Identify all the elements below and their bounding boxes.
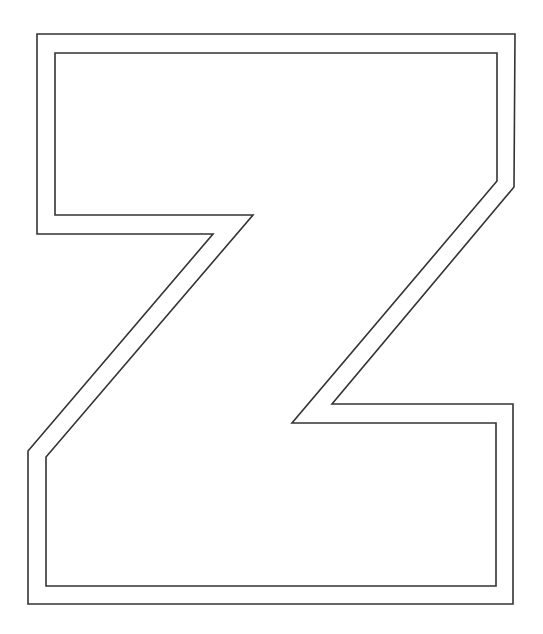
letter-z-inner-outline bbox=[46, 53, 497, 586]
letter-z-outer-outline bbox=[28, 34, 515, 604]
letter-z-drawing bbox=[0, 0, 543, 634]
letter-z-canvas bbox=[0, 0, 543, 634]
